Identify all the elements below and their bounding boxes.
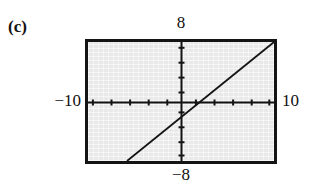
plot-frame: [85, 39, 277, 164]
axis-label-right: 10: [282, 92, 299, 110]
panel-label: (c): [8, 17, 27, 37]
axis-label-top: 8: [85, 14, 277, 32]
axis-label-bottom: −8: [85, 166, 277, 184]
plot-canvas: [88, 42, 274, 161]
axis-label-left: −10: [20, 92, 81, 110]
figure-panel-c: (c): [0, 0, 311, 187]
